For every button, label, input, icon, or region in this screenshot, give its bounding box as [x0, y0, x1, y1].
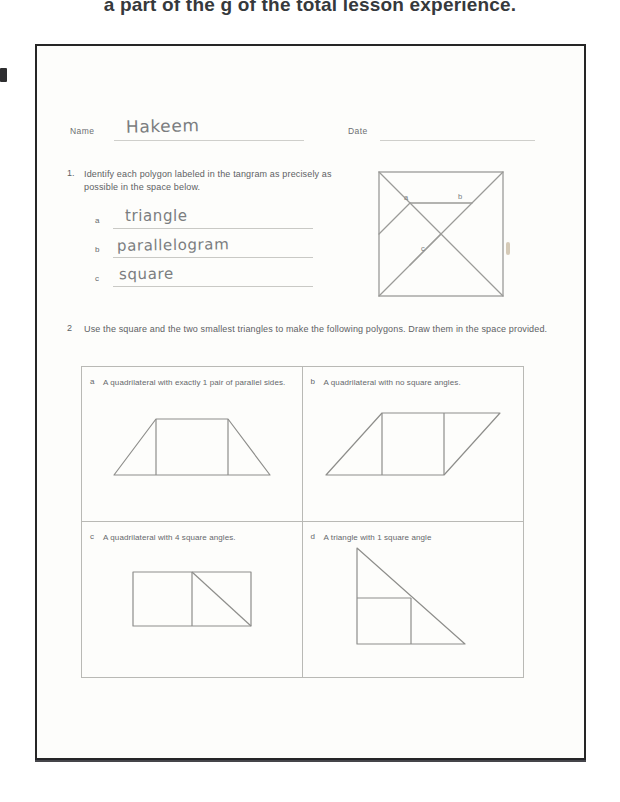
question-2-number: 2	[67, 323, 72, 333]
grid-cell-d-drawing	[303, 540, 524, 662]
answer-row-a: a triangle	[95, 208, 340, 237]
answer-line-a[interactable]	[113, 228, 313, 229]
question-1-answers: a triangle b parallelogram c square	[95, 208, 340, 295]
parallelogram-drawing	[318, 401, 508, 485]
worksheet-sheet: Name Hakeem Date 1. Identify each polygo…	[35, 44, 586, 760]
date-label: Date	[348, 126, 368, 136]
date-write-line[interactable]	[380, 140, 535, 141]
tangram-label-a: a	[404, 193, 408, 202]
answer-row-b: b parallelogram	[95, 237, 340, 266]
trapezoid-drawing	[102, 405, 282, 485]
grid-cell-b-text: A quadrilateral with no square angles.	[324, 377, 514, 389]
name-write-line[interactable]	[114, 140, 304, 141]
tangram-diagram: a b c	[375, 168, 508, 300]
answer-line-b[interactable]	[113, 257, 313, 258]
name-handwritten-value: Hakeem	[126, 115, 200, 136]
grid-cell-b-letter: b	[311, 377, 315, 386]
scan-edge-artifact	[0, 68, 7, 82]
answer-value-b: parallelogram	[117, 235, 230, 255]
grid-cell-c-drawing	[82, 566, 302, 677]
answer-row-c: c square	[95, 266, 340, 295]
tangram-label-c: c	[421, 244, 425, 253]
question-1: 1. Identify each polygon labeled in the …	[67, 168, 367, 194]
grid-cell-c-text: A quadrilateral with 4 square angles.	[103, 532, 292, 544]
answer-value-c: square	[119, 265, 174, 283]
question-2-text: Use the square and the two smallest tria…	[84, 323, 557, 336]
rectangle-drawing	[127, 566, 257, 632]
answer-letter-b: b	[95, 245, 99, 254]
name-label: Name	[70, 126, 94, 136]
grid-cell-d[interactable]: d A triangle with 1 square angle	[303, 522, 524, 677]
tangram-svg	[375, 168, 508, 300]
grid-cell-b-drawing	[303, 401, 524, 522]
question-1-number: 1.	[67, 168, 75, 178]
question-2: 2 Use the square and the two smallest tr…	[67, 323, 557, 336]
scan-smudge	[506, 242, 510, 255]
question-2-grid: a A quadrilateral with exactly 1 pair of…	[81, 366, 524, 678]
name-date-row: Name Hakeem Date	[70, 118, 557, 144]
tangram-label-b: b	[458, 192, 462, 201]
cropped-header-text: a part of the g of the total lesson expe…	[0, 0, 620, 18]
grid-cell-c[interactable]: c A quadrilateral with 4 square angles.	[82, 522, 303, 677]
grid-cell-b[interactable]: b A quadrilateral with no square angles.	[303, 367, 524, 522]
answer-letter-a: a	[95, 216, 99, 225]
grid-cell-a[interactable]: a A quadrilateral with exactly 1 pair of…	[82, 367, 303, 522]
grid-cell-a-text: A quadrilateral with exactly 1 pair of p…	[103, 377, 292, 389]
grid-cell-a-drawing	[82, 405, 302, 522]
answer-line-c[interactable]	[113, 286, 313, 287]
question-1-text: Identify each polygon labeled in the tan…	[84, 168, 367, 194]
right-triangle-drawing	[343, 540, 483, 656]
answer-letter-c: c	[95, 274, 99, 283]
grid-cell-a-letter: a	[90, 377, 94, 386]
grid-cell-c-letter: c	[90, 532, 94, 541]
answer-value-a: triangle	[125, 207, 188, 225]
